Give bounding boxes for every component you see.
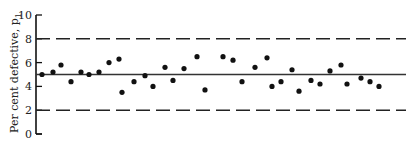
data-point	[181, 66, 186, 71]
y-tick-label: 6	[25, 57, 32, 70]
data-point	[252, 65, 257, 70]
data-point	[39, 72, 44, 77]
data-point	[131, 79, 136, 84]
data-point	[358, 75, 363, 80]
y-axis-label: Per cent defective, p1	[8, 8, 22, 138]
data-point	[68, 79, 73, 84]
data-point	[142, 73, 147, 78]
data-point	[264, 55, 269, 60]
data-point	[338, 62, 343, 67]
y-tick-label: 0	[25, 128, 32, 141]
data-point	[296, 89, 301, 94]
control-chart: 0246810	[0, 0, 415, 146]
data-point	[367, 79, 372, 84]
data-point	[376, 84, 381, 89]
data-point	[86, 72, 91, 77]
data-point	[170, 78, 175, 83]
data-point	[308, 78, 313, 83]
data-point	[220, 54, 225, 59]
data-point	[202, 87, 207, 92]
data-point	[317, 81, 322, 86]
data-point	[50, 70, 55, 75]
data-point	[344, 81, 349, 86]
data-point	[116, 56, 121, 61]
data-point	[194, 54, 199, 59]
data-point	[150, 84, 155, 89]
data-point	[78, 70, 83, 75]
data-point	[96, 70, 101, 75]
y-tick-label: 4	[25, 80, 32, 93]
data-point	[162, 65, 167, 70]
data-point	[278, 79, 283, 84]
y-tick-label: 2	[25, 104, 32, 117]
data-point	[289, 67, 294, 72]
data-point	[269, 84, 274, 89]
y-tick-label: 8	[25, 33, 32, 46]
data-point	[119, 90, 124, 95]
data-point	[230, 58, 235, 63]
data-point	[239, 79, 244, 84]
data-point	[327, 68, 332, 73]
data-point	[106, 60, 111, 65]
data-point	[58, 62, 63, 67]
